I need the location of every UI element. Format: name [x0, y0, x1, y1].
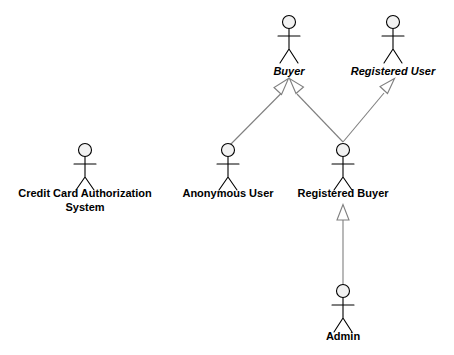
actor-body-icon [217, 157, 239, 190]
generalization-line [228, 93, 282, 147]
actor-body-icon [74, 157, 96, 190]
generalization-arrowhead-icon [290, 79, 304, 94]
actor-head-icon [222, 144, 235, 157]
actor-label-credit-card-authorization-system-line1: Credit Card Authorization [18, 187, 152, 199]
actor-credit-card-authorization-system[interactable]: Credit Card Authorization System [18, 144, 152, 214]
actor-head-icon [337, 144, 350, 157]
generalization-registered-buyer-to-registered-user[interactable] [343, 79, 395, 143]
actor-label-registered-user: Registered User [351, 65, 436, 77]
generalization-line [297, 94, 343, 142]
actor-label-registered-buyer: Registered Buyer [297, 187, 389, 199]
diagram-svg: Buyer Registered User Credit Card Author… [0, 0, 454, 355]
generalization-line [343, 93, 384, 142]
uml-diagram-canvas: Buyer Registered User Credit Card Author… [0, 0, 454, 355]
generalization-registered-buyer-to-buyer[interactable] [290, 79, 344, 143]
actor-head-icon [337, 285, 350, 298]
actor-registered-user[interactable]: Registered User [351, 16, 436, 78]
actor-label-credit-card-authorization-system-line2: System [65, 201, 104, 213]
actor-buyer[interactable]: Buyer [273, 16, 305, 78]
actor-label-admin: Admin [326, 330, 361, 342]
generalization-arrowhead-icon [274, 79, 289, 95]
actor-anonymous-user[interactable]: Anonymous User [182, 144, 274, 200]
actor-body-icon [382, 29, 404, 63]
actor-registered-buyer[interactable]: Registered Buyer [297, 144, 389, 200]
generalization-admin-to-registered-buyer[interactable] [337, 205, 349, 286]
generalization-arrowhead-icon [380, 79, 395, 94]
actor-label-anonymous-user: Anonymous User [182, 187, 274, 199]
actor-head-icon [387, 16, 400, 29]
actor-admin[interactable]: Admin [326, 285, 361, 343]
actor-body-icon [332, 157, 354, 190]
actor-label-buyer: Buyer [273, 65, 305, 77]
actor-body-icon [278, 29, 300, 63]
actor-head-icon [79, 144, 92, 157]
generalization-arrowhead-icon [337, 205, 349, 221]
actor-head-icon [283, 16, 296, 29]
actor-body-icon [332, 298, 354, 332]
generalization-anonymous-user-to-buyer[interactable] [228, 79, 289, 148]
